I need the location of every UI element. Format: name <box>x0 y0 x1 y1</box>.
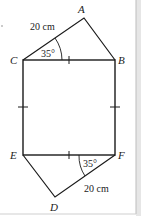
length-df: 20 cm <box>84 183 109 194</box>
label-b: B <box>118 54 125 66</box>
geometry-diagram: A B C E F D 20 cm 35° 35° 20 cm <box>0 0 141 216</box>
label-e: E <box>9 149 17 161</box>
angle-arc-c <box>55 38 62 60</box>
angle-c-value: 35° <box>41 48 55 59</box>
diagram-canvas: A B C E F D 20 cm 35° 35° 20 cm <box>0 0 141 216</box>
label-d: D <box>49 201 58 213</box>
square-cbfe <box>23 60 115 155</box>
length-ca: 20 cm <box>30 21 55 32</box>
label-c: C <box>10 54 18 66</box>
label-f: F <box>117 149 125 161</box>
stray-dot <box>1 25 3 27</box>
label-a: A <box>77 3 85 15</box>
right-border <box>136 0 141 216</box>
angle-f-value: 35° <box>83 158 97 169</box>
